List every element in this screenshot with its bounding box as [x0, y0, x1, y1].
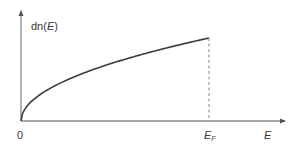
- density-of-states-diagram: dn(E) 0 EF E: [0, 0, 294, 148]
- y-axis-label: dn(E): [31, 20, 58, 32]
- origin-label: 0: [17, 129, 23, 141]
- x-axis-label: E: [264, 129, 272, 141]
- fermi-energy-label: EF: [204, 129, 216, 142]
- dos-curve: [21, 38, 209, 121]
